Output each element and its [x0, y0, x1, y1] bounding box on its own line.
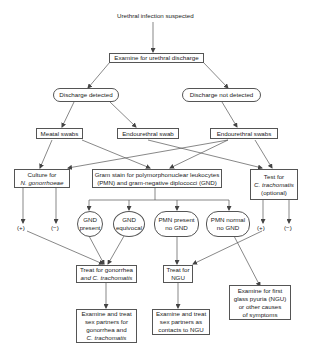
pmn-present-text-1: PMN present [158, 216, 194, 224]
test-ct-box: Test for C. trachomatis (optional) [250, 169, 298, 200]
partners-gc-ct-text-3: gonorrhea and [86, 326, 126, 334]
first-glass-text-3: or other causes [239, 303, 282, 311]
first-glass-box: Examine for first glass pyuria (NGU) or … [229, 285, 291, 320]
first-glass-text-1: Examine for first [238, 287, 283, 295]
partners-ngu-box: Examine and treat sex partners as contac… [152, 309, 210, 335]
examine-discharge-box: Examine for urethral discharge [109, 53, 204, 63]
culture-positive-label: (+) [17, 224, 25, 231]
partners-gc-ct-text-4: C. trachomatis [87, 334, 127, 342]
first-glass-text-4: of symptoms [242, 311, 277, 319]
culture-text-2: N. gonorrhoeae [21, 179, 64, 187]
endourethral-swab-text: Endourethral swab [122, 130, 174, 138]
pmn-normal-text-2: no GND [217, 224, 239, 232]
first-glass-text-2: glass pyuria (NGU) [234, 295, 287, 303]
treat-gc-ct-text-2: and C. trachomatis [81, 274, 133, 282]
treat-ngu-text-2: NGU [171, 274, 185, 282]
endourethral-swabs-text: Endourethral swabs [217, 130, 272, 138]
gnd-equivocal-text-2: equivocal [116, 224, 142, 232]
pmn-normal-text-1: PMN normal [211, 216, 245, 224]
gnd-present-text-2: present [80, 224, 101, 232]
test-ct-text-1: Test for [264, 173, 284, 181]
discharge-detected-text: Discharge detected [59, 91, 112, 99]
gram-stain-text-2: (PMN) and gram-negative diplococci (GND) [97, 179, 217, 187]
pmn-normal-node: PMN normal no GND [206, 211, 250, 237]
gram-stain-text-1: Gram stain for polymorphonuclear leukocy… [95, 171, 220, 179]
treat-ngu-box: Treat for NGU [163, 265, 193, 283]
endourethral-swab-box: Endourethral swab [117, 128, 179, 139]
gnd-present-node: GND present [77, 211, 103, 237]
pmn-present-node: PMN present no GND [154, 211, 199, 237]
treat-ngu-text-1: Treat for [166, 266, 189, 274]
discharge-not-detected-node: Discharge not detected [182, 88, 261, 102]
treat-gc-ct-text-1: Treat for gonorrhea [80, 266, 133, 274]
gnd-equivocal-text-1: GND [122, 216, 136, 224]
test-positive-label: (+) [257, 224, 265, 231]
treat-gc-ct-box: Treat for gonorrhea and C. trachomatis [76, 265, 137, 283]
partners-ngu-text-1: Examine and treat [156, 310, 206, 318]
test-ct-text-3: (optional) [261, 189, 287, 197]
meatal-swabs-box: Meatal swabs [36, 128, 83, 139]
discharge-detected-node: Discharge detected [53, 88, 119, 102]
culture-box: Culture for N. gonorrhoeae [14, 169, 70, 188]
partners-ngu-text-3: contacts to NGU [158, 326, 203, 334]
gnd-present-text-1: GND [83, 216, 97, 224]
discharge-not-detected-text: Discharge not detected [190, 91, 254, 99]
partners-gc-ct-text-1: Examine and treat [81, 310, 131, 318]
culture-negative-label: (−) [51, 224, 59, 231]
pmn-present-text-2: no GND [165, 224, 187, 232]
partners-gc-ct-box: Examine and treat sex partners for gonor… [76, 309, 137, 343]
test-negative-label: (−) [284, 224, 292, 231]
examine-discharge-text: Examine for urethral discharge [114, 54, 198, 62]
test-ct-text-2: C. trachomatis [254, 181, 294, 189]
culture-text-1: Culture for [28, 171, 57, 179]
endourethral-swabs-box: Endourethral swabs [210, 128, 278, 139]
partners-ngu-text-2: sex partners as [160, 318, 202, 326]
meatal-swabs-text: Meatal swabs [41, 130, 79, 138]
partners-gc-ct-text-2: sex partners for [85, 318, 128, 326]
gram-stain-box: Gram stain for polymorphonuclear leukocy… [92, 169, 222, 188]
gnd-equivocal-node: GND equivocal [113, 211, 145, 237]
start-label: Urethral infection suspected [117, 12, 194, 19]
